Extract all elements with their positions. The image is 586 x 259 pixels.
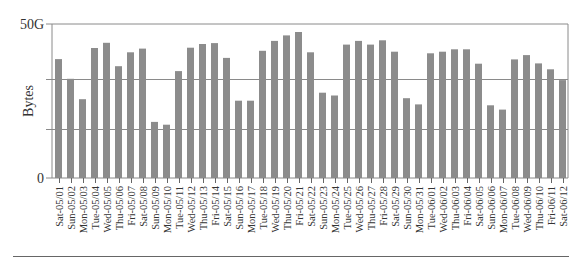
x-tick-label: Fri-06/04 — [462, 185, 473, 225]
bar-Tue-05/11 — [175, 71, 182, 178]
x-tick-label: Sat-05/08 — [138, 186, 149, 227]
bar-Fri-06/04 — [463, 49, 470, 178]
bar-Sat-06/12 — [559, 80, 566, 178]
bar-Sat-05/22 — [307, 52, 314, 178]
x-tick-label: Thu-06/03 — [450, 186, 461, 230]
x-tick-label: Fri-05/14 — [210, 185, 221, 225]
x-tick-label: Sat-06/12 — [558, 186, 569, 227]
x-tick-label: Tue-05/25 — [342, 186, 353, 229]
bar-Sun-06/06 — [487, 105, 494, 178]
bar-Thu-05/20 — [283, 35, 290, 178]
x-tick-label: Wed-06/09 — [522, 186, 533, 232]
bar-Mon-05/10 — [163, 125, 170, 178]
bar-Thu-05/27 — [367, 45, 374, 178]
x-tick-label: Wed-06/02 — [438, 186, 449, 232]
x-tick-label: Tue-06/08 — [510, 186, 521, 229]
bar-Mon-05/24 — [331, 96, 338, 179]
bar-Mon-05/17 — [247, 101, 254, 178]
x-tick-label: Thu-05/20 — [282, 186, 293, 230]
x-tick-labels: Sat-05/01Sun-05/02Mon-05/03Tue-05/04Wed-… — [54, 185, 569, 233]
bars — [55, 32, 566, 178]
x-tick-label: Fri-06/11 — [546, 186, 557, 225]
x-tick-label: Sun-05/09 — [150, 186, 161, 230]
x-tick-label: Sun-05/02 — [66, 186, 77, 230]
x-tick-label: Tue-05/04 — [90, 185, 101, 229]
bar-Tue-05/25 — [343, 45, 350, 178]
x-ticks — [60, 178, 564, 183]
x-tick-label: Tue-06/01 — [426, 186, 437, 229]
x-tick-label: Mon-06/07 — [498, 186, 509, 233]
bar-Sun-05/30 — [403, 98, 410, 178]
x-tick-label: Mon-05/03 — [78, 186, 89, 233]
x-tick-label: Sat-05/29 — [390, 186, 401, 227]
x-tick-label: Thu-06/10 — [534, 186, 545, 230]
x-tick-label: Sun-05/23 — [318, 186, 329, 230]
bar-Fri-05/14 — [211, 43, 218, 178]
bar-chart: 50G 0 Bytes Sat-05/01Sun-05/02Mon-05/03T… — [0, 0, 586, 259]
x-tick-label: Tue-05/11 — [174, 186, 185, 229]
x-tick-label: Fri-05/28 — [378, 186, 389, 226]
x-tick-label: Sat-05/15 — [222, 186, 233, 227]
bar-Tue-05/18 — [259, 51, 266, 178]
x-tick-label: Sat-05/01 — [54, 186, 65, 227]
bar-Fri-05/28 — [379, 40, 386, 178]
bar-Wed-06/09 — [523, 55, 530, 178]
x-tick-label: Thu-05/06 — [114, 186, 125, 230]
bar-Wed-05/05 — [103, 43, 110, 178]
x-tick-label: Mon-05/10 — [162, 186, 173, 233]
y-axis-label: Bytes — [21, 85, 36, 117]
bar-Fri-06/11 — [547, 69, 554, 178]
bar-Sun-05/09 — [151, 122, 158, 178]
x-tick-label: Wed-05/26 — [354, 186, 365, 232]
bar-Fri-05/07 — [127, 52, 134, 178]
bar-Mon-06/07 — [499, 110, 506, 178]
x-tick-label: Sun-05/16 — [234, 186, 245, 230]
bar-Sat-05/01 — [55, 59, 62, 178]
x-tick-label: Sat-05/22 — [306, 186, 317, 227]
bar-Thu-06/10 — [535, 63, 542, 178]
bar-Thu-06/03 — [451, 49, 458, 178]
x-tick-label: Fri-05/07 — [126, 186, 137, 226]
x-tick-label: Thu-05/27 — [366, 186, 377, 230]
x-tick-label: Sun-05/30 — [402, 186, 413, 230]
y-tick-label-zero: 0 — [37, 171, 44, 186]
bar-Wed-05/12 — [187, 48, 194, 178]
bar-Wed-05/19 — [271, 41, 278, 178]
bar-Sat-05/15 — [223, 58, 230, 178]
x-tick-label: Mon-05/24 — [330, 185, 341, 233]
bar-Thu-05/06 — [115, 66, 122, 178]
x-tick-label: Sun-06/06 — [486, 186, 497, 230]
x-tick-label: Thu-05/13 — [198, 186, 209, 230]
bar-Sun-05/02 — [67, 79, 74, 178]
x-tick-label: Wed-05/19 — [270, 186, 281, 232]
bar-Sat-05/08 — [139, 49, 146, 178]
x-tick-label: Fri-05/21 — [294, 186, 305, 226]
bar-Wed-06/02 — [439, 52, 446, 178]
bar-Sun-05/23 — [319, 93, 326, 178]
x-tick-label: Mon-05/31 — [414, 186, 425, 233]
bar-Sat-05/29 — [391, 52, 398, 178]
bar-Fri-05/21 — [295, 32, 302, 178]
x-tick-label: Mon-05/17 — [246, 186, 257, 233]
bar-Tue-06/08 — [511, 59, 518, 178]
x-tick-label: Sat-06/05 — [474, 186, 485, 227]
x-tick-label: Wed-05/05 — [102, 186, 113, 232]
bar-Wed-05/26 — [355, 41, 362, 178]
bar-Tue-05/04 — [91, 48, 98, 178]
bar-Sat-06/05 — [475, 64, 482, 178]
x-tick-label: Wed-05/12 — [186, 186, 197, 232]
bar-Mon-05/03 — [79, 99, 86, 178]
y-tick-label-max: 50G — [20, 17, 44, 32]
bar-Thu-05/13 — [199, 44, 206, 178]
bar-Tue-06/01 — [427, 53, 434, 178]
bar-Mon-05/31 — [415, 104, 422, 178]
bar-Sun-05/16 — [235, 101, 242, 178]
x-tick-label: Tue-05/18 — [258, 186, 269, 229]
